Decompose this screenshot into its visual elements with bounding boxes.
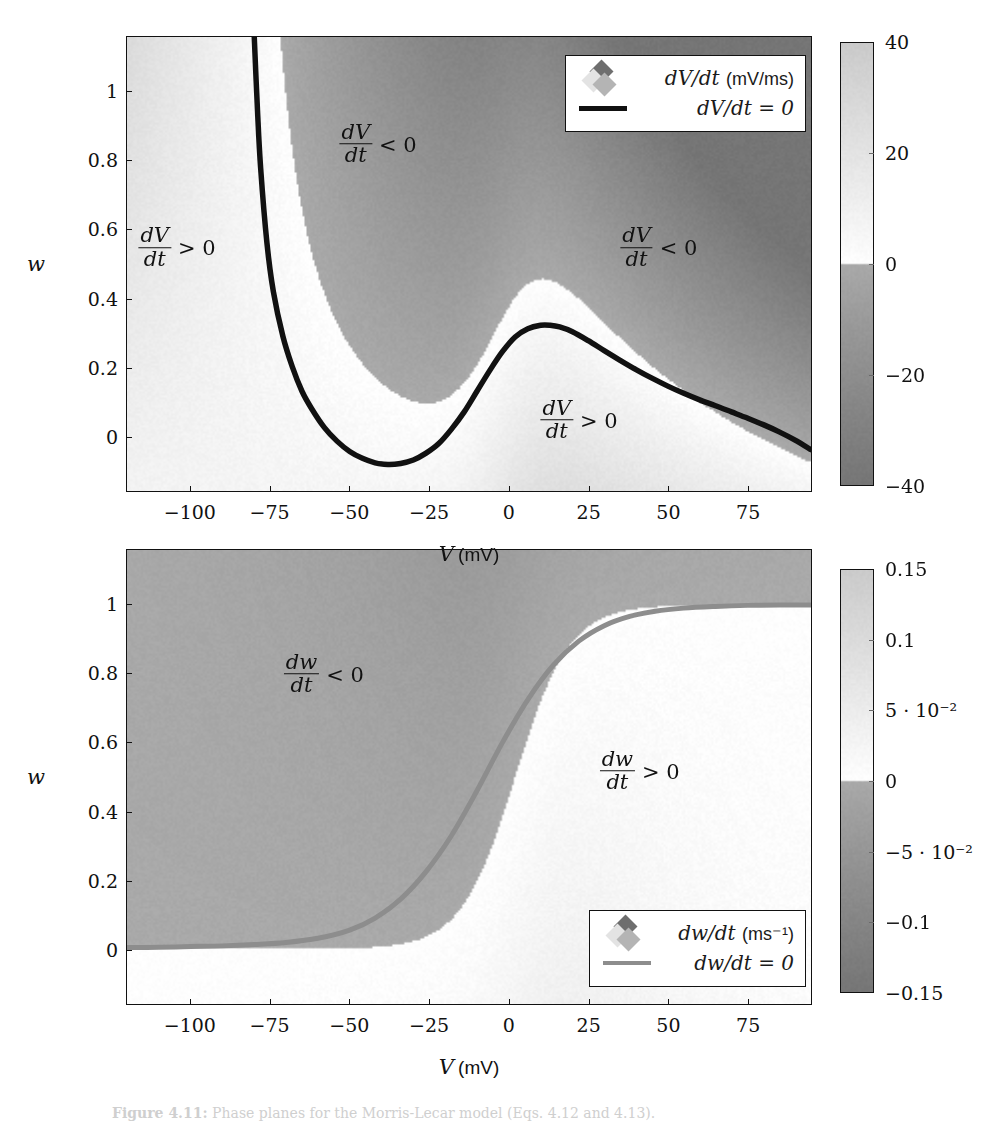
annotation-dvdt-positive-left: dVdt> 0: [138, 226, 215, 272]
colorbar-tickmark: [869, 922, 874, 923]
x-tick-label: −25: [409, 501, 449, 523]
x-tickmark: [668, 999, 669, 1005]
x-tickmark: [589, 999, 590, 1005]
annotation-dvdt-negative-right: dVdt< 0: [620, 226, 697, 272]
colorbar-tickmark: [869, 640, 874, 641]
x-tickmark: [429, 999, 430, 1005]
x-axis-title: V (mV): [439, 1055, 500, 1079]
y-tickmark: [126, 437, 132, 438]
x-tickmark: [509, 999, 510, 1005]
x-tick-label: 50: [656, 501, 680, 523]
legend-row-heatmap: dw/dt (ms⁻¹): [599, 918, 794, 948]
x-tickmark: [589, 486, 590, 492]
y-axis-title: w: [16, 252, 56, 276]
legend-dwdt: dw/dt (ms⁻¹) dw/dt = 0: [589, 910, 806, 987]
y-tick-label: 0.6: [68, 731, 118, 753]
x-tickmark: [509, 486, 510, 492]
x-tick-label: −100: [164, 1014, 216, 1036]
heatmap-swatch-icon: [575, 63, 631, 93]
y-tickmark: [126, 160, 132, 161]
x-tick-label: 50: [656, 1014, 680, 1036]
colorbar-tick-label: −0.15: [885, 982, 943, 1004]
colorbar-tick-label: 40: [885, 31, 909, 53]
colorbar-tickmark: [869, 264, 874, 265]
legend-dvdt: dV/dt (mV/ms) dV/dt = 0: [565, 55, 806, 132]
y-tick-label: 1: [68, 593, 118, 615]
x-tick-label: −25: [409, 1014, 449, 1036]
x-tick-label: −50: [329, 1014, 369, 1036]
y-tick-label: 1: [68, 80, 118, 102]
x-tick-label: 75: [736, 501, 760, 523]
y-tickmark: [126, 299, 132, 300]
legend-row-nullcline: dw/dt = 0: [599, 948, 794, 978]
y-tickmark: [126, 229, 132, 230]
line-swatch-icon: [599, 961, 655, 965]
colorbar-tick-label: 0: [885, 770, 897, 792]
annotation-dwdt-positive: dwdt> 0: [600, 749, 680, 795]
x-tickmark: [270, 486, 271, 492]
y-tickmark: [126, 673, 132, 674]
x-tick-label: −50: [329, 501, 369, 523]
y-tick-label: 0.2: [68, 357, 118, 379]
legend-label-dwdt: dw/dt (ms⁻¹): [667, 921, 794, 945]
x-tickmark: [349, 486, 350, 492]
y-tick-label: 0: [68, 939, 118, 961]
y-tickmark: [126, 91, 132, 92]
x-tick-label: 25: [577, 1014, 601, 1036]
x-tickmark: [190, 486, 191, 492]
colorbar-tick-label: 5 · 10⁻²: [885, 699, 957, 721]
x-tickmark: [668, 486, 669, 492]
x-tick-label: 0: [503, 1014, 515, 1036]
y-tick-label: 0.6: [68, 218, 118, 240]
colorbar-tickmark: [869, 153, 874, 154]
figure-caption: Figure 4.11: Phase planes for the Morris…: [112, 1104, 902, 1123]
y-tickmark: [126, 812, 132, 813]
y-tick-label: 0: [68, 426, 118, 448]
colorbar-tickmark: [869, 781, 874, 782]
colorbar-tick-label: −20: [885, 364, 925, 386]
x-axis-title: V (mV): [439, 542, 500, 566]
heatmap-swatch-icon: [599, 918, 655, 948]
x-tickmark: [190, 999, 191, 1005]
colorbar-tickmark: [869, 375, 874, 376]
x-tickmark: [748, 486, 749, 492]
figure-root: dVdt> 0 dVdt< 0 dVdt< 0 dVdt> 0 dV/dt (m…: [0, 0, 999, 1129]
colorbar-tick-label: −40: [885, 475, 925, 497]
x-tickmark: [429, 486, 430, 492]
line-swatch-icon: [575, 106, 631, 111]
y-tickmark: [126, 881, 132, 882]
y-tickmark: [126, 950, 132, 951]
colorbar-tick-label: −5 · 10⁻²: [885, 841, 973, 863]
legend-row-nullcline: dV/dt = 0: [575, 93, 794, 123]
colorbar-tick-label: 0.15: [885, 558, 927, 580]
colorbar-tick-label: −0.1: [885, 911, 931, 933]
x-tick-label: 0: [503, 501, 515, 523]
y-tickmark: [126, 368, 132, 369]
x-tickmark: [270, 999, 271, 1005]
legend-label-nullcline-dvdt: dV/dt = 0: [643, 96, 794, 120]
caption-text: Phase planes for the Morris-Lecar model …: [212, 1105, 655, 1121]
y-axis-title: w: [16, 765, 56, 789]
caption-label: Figure 4.11:: [112, 1105, 208, 1121]
x-tick-label: −75: [250, 1014, 290, 1036]
y-tick-label: 0.8: [68, 149, 118, 171]
annotation-dvdt-negative-upper: dVdt< 0: [339, 122, 416, 168]
legend-label-dvdt: dV/dt (mV/ms): [643, 66, 794, 90]
y-tick-label: 0.4: [68, 288, 118, 310]
annotation-dwdt-negative: dwdt< 0: [284, 652, 364, 698]
colorbar-tickmark: [869, 852, 874, 853]
x-tick-label: 75: [736, 1014, 760, 1036]
x-tick-label: −100: [164, 501, 216, 523]
x-tickmark: [748, 999, 749, 1005]
legend-row-heatmap: dV/dt (mV/ms): [575, 63, 794, 93]
colorbar-tick-label: 20: [885, 142, 909, 164]
colorbar-tickmark: [869, 710, 874, 711]
y-tickmark: [126, 742, 132, 743]
x-tick-label: 25: [577, 501, 601, 523]
annotation-dvdt-positive-lower: dVdt> 0: [540, 398, 617, 444]
y-tick-label: 0.4: [68, 801, 118, 823]
y-tick-label: 0.2: [68, 870, 118, 892]
x-tick-label: −75: [250, 501, 290, 523]
y-tick-label: 0.8: [68, 662, 118, 684]
colorbar-tick-label: 0: [885, 253, 897, 275]
